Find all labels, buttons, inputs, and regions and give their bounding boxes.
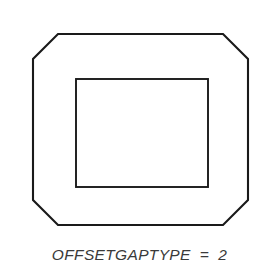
figure-container: OFFSETGAPTYPE = 2 [0, 0, 279, 269]
caption-parameter-name: OFFSETGAPTYPE [52, 247, 191, 263]
caption-equals-sign: = [200, 247, 209, 263]
offsetgaptype-diagram [0, 0, 279, 269]
caption-value: 2 [218, 247, 227, 263]
inner-rectangle-outline [76, 79, 208, 187]
caption-row: OFFSETGAPTYPE = 2 [0, 240, 279, 269]
